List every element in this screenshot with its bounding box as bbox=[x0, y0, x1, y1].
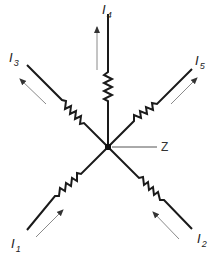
branch-i1: I1 bbox=[11, 147, 108, 254]
node-label: Z bbox=[161, 140, 168, 154]
label-i5: I5 bbox=[195, 53, 206, 71]
junction-diagram: I4 I3 I5 I1 I2 Z bbox=[0, 0, 218, 255]
resistor-i1 bbox=[27, 147, 108, 230]
current-arrow-i5 bbox=[171, 78, 197, 104]
label-i3: I3 bbox=[9, 50, 19, 68]
current-arrow-i2 bbox=[153, 212, 179, 239]
label-i4: I4 bbox=[102, 2, 112, 20]
resistor-i2 bbox=[108, 147, 192, 229]
branch-i5: I5 bbox=[108, 53, 206, 147]
current-arrow-i3 bbox=[20, 79, 46, 104]
junction-node: Z bbox=[105, 140, 168, 154]
label-i1: I1 bbox=[11, 236, 21, 254]
resistor-i5 bbox=[108, 69, 192, 147]
label-i2: I2 bbox=[197, 231, 207, 249]
node-dot bbox=[105, 144, 111, 150]
branch-i3: I3 bbox=[9, 50, 108, 147]
resistor-i3 bbox=[27, 65, 108, 147]
resistor-i4 bbox=[104, 14, 112, 147]
branch-i4: I4 bbox=[97, 2, 112, 147]
branch-i2: I2 bbox=[108, 147, 207, 249]
